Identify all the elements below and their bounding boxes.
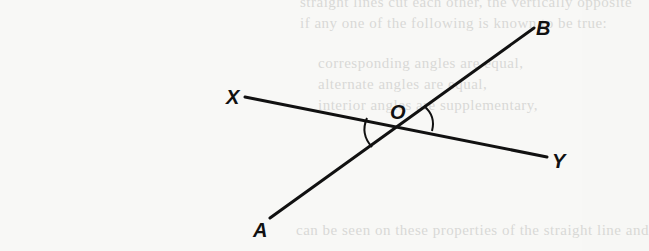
label-o: O [390, 101, 406, 123]
label-y: Y [552, 150, 567, 172]
line-ab [270, 28, 534, 218]
label-x: X [225, 86, 241, 108]
label-b: B [536, 17, 550, 39]
angle-arc-right [424, 106, 433, 131]
label-a: A [252, 219, 267, 241]
